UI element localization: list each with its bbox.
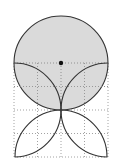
center-point <box>59 61 63 65</box>
geometry-diagram <box>0 0 117 163</box>
